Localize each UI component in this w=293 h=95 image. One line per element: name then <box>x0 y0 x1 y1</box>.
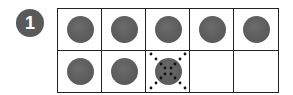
counter-dot <box>199 16 226 43</box>
counter-dot <box>111 58 138 85</box>
problem-number: 1 <box>16 9 44 37</box>
counter-dot <box>155 16 182 43</box>
ten-frame <box>57 8 279 93</box>
ten-frame-cell <box>58 9 102 51</box>
ten-frame-cell <box>146 51 190 93</box>
ten-frame-cell <box>102 51 146 93</box>
dotted-cross-out-icon <box>148 51 188 91</box>
ten-frame-cell <box>102 9 146 51</box>
problem-number-badge: 1 <box>16 9 44 37</box>
ten-frame-cell <box>190 51 234 93</box>
counter-dot <box>67 16 94 43</box>
ten-frame-cell <box>146 9 190 51</box>
ten-frame-cell <box>234 51 278 93</box>
ten-frame-cell <box>58 51 102 93</box>
counter-dot <box>111 16 138 43</box>
counter-dot <box>67 58 94 85</box>
ten-frame-cell <box>234 9 278 51</box>
ten-frame-cell <box>190 9 234 51</box>
counter-dot <box>243 16 270 43</box>
